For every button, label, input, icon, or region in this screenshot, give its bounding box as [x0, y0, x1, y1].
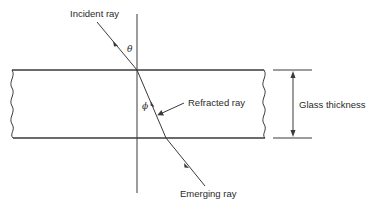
refraction-diagram: Incident ray θ ϕ Refracted ray Glass thi… [0, 0, 369, 207]
thickness-arrow-up-icon [291, 71, 296, 78]
emerging-ray-label: Emerging ray [180, 188, 237, 199]
incident-ray-label: Incident ray [70, 8, 119, 19]
refracted-ray-label: Refracted ray [188, 97, 245, 108]
phi-label: ϕ [142, 101, 148, 111]
glass-left-break-edge [11, 70, 13, 138]
thickness-arrow-down-icon [291, 130, 296, 137]
glass-thickness-label: Glass thickness [299, 99, 366, 110]
refracted-ray-leader [160, 103, 184, 114]
refracted-arrow-icon [151, 102, 155, 108]
incident-arrow-icon [113, 41, 118, 47]
glass-right-break-edge [263, 70, 265, 138]
emerging-ray [166, 138, 205, 186]
theta-label: θ [127, 44, 133, 54]
